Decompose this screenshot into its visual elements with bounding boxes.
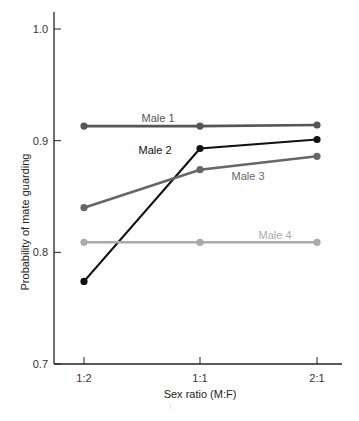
series-label: Male 4 <box>258 229 291 241</box>
series-male-4: Male 4 <box>80 229 320 246</box>
y-tick-label: 0.8 <box>33 246 48 258</box>
x-axis-label: Sex ratio (M:F) <box>164 388 237 400</box>
x-ticks: 1:21:12:1 <box>76 357 324 384</box>
series-male-1: Male 1 <box>80 112 320 130</box>
line-chart: 0.70.80.91.0 1:21:12:1 Probability of ma… <box>0 0 359 421</box>
data-point <box>196 239 203 246</box>
x-tick-label: 2:1 <box>309 372 324 384</box>
y-axis-label: Probability of mate guarding <box>19 154 31 291</box>
series-label: Male 1 <box>141 112 174 124</box>
x-tick-label: 1:2 <box>76 372 91 384</box>
data-point <box>313 239 320 246</box>
data-point <box>80 278 87 285</box>
y-tick-label: 0.9 <box>33 135 48 147</box>
data-point <box>196 145 203 152</box>
data-point <box>313 153 320 160</box>
y-tick-label: 0.7 <box>33 358 48 370</box>
x-tick-label: 1:1 <box>192 372 207 384</box>
y-tick-label: 1.0 <box>33 23 48 35</box>
y-ticks: 0.70.80.91.0 <box>33 23 61 370</box>
series-label: Male 3 <box>231 170 264 182</box>
series-male-3: Male 3 <box>80 153 320 212</box>
data-point <box>80 239 87 246</box>
data-point <box>196 166 203 173</box>
series-group: Male 1Male 2Male 3Male 4 <box>80 112 320 285</box>
series-male-2: Male 2 <box>80 136 320 285</box>
data-point <box>80 123 87 130</box>
data-point <box>313 136 320 143</box>
data-point <box>313 121 320 128</box>
series-label: Male 2 <box>138 144 171 156</box>
data-point <box>196 123 203 130</box>
series-line <box>84 156 317 207</box>
data-point <box>80 204 87 211</box>
